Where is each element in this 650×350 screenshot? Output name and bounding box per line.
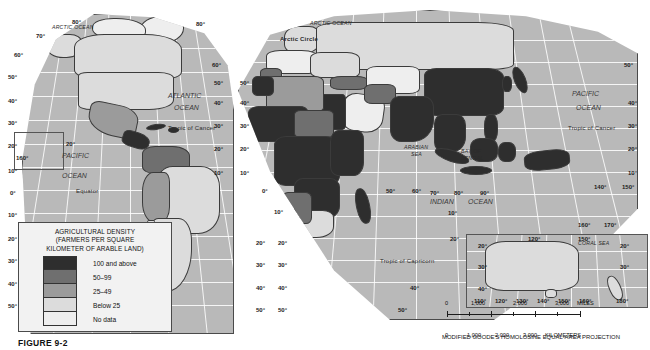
inset-lat-30-left: 30° <box>478 264 487 270</box>
scale-miles-labels: 0 1,000 2,000 3,000 MILES <box>415 300 647 310</box>
label-equator: Equator <box>76 188 98 194</box>
lat-label-s20-l: 20° <box>256 240 265 246</box>
landmass-australia <box>485 241 579 291</box>
lat-label-s40-far: 40° <box>410 285 419 291</box>
scale-tick <box>535 311 536 317</box>
legend-title-line-3: KILOMETER OF ARABLE LAND) <box>23 245 167 253</box>
lon-label-inset-160: 160° <box>16 155 28 161</box>
lat-label-s40-r: 40° <box>278 285 287 291</box>
scale-bar <box>447 312 581 317</box>
lat-label-left-inner-40: 40° <box>214 100 223 106</box>
label-arabian-sea-line2: SEA <box>411 151 422 157</box>
inset-frame-west-pacific <box>14 132 64 170</box>
map-scale-block: 0 1,000 2,000 3,000 MILES 0 1,000 2,000 … <box>415 300 647 346</box>
lat-label-left-inner-60: 60° <box>212 62 221 68</box>
lon-label-150: 150° <box>622 184 634 190</box>
lat-label-50-s: 50° <box>8 303 17 309</box>
lat-label-40: 40° <box>8 98 17 104</box>
scale-miles-unit: MILES <box>577 300 594 306</box>
label-bay-of-bengal-line2: BENGAL <box>461 155 483 161</box>
legend-entry-label: No data <box>93 316 116 323</box>
lat-label-left-inner-10: 10° <box>214 170 223 176</box>
lat-label-right-20s: 20° <box>450 236 459 242</box>
legend-entry: No data <box>43 312 137 326</box>
lat-label-right-edge-10: 10° <box>628 170 637 176</box>
legend-entry-label: 50–99 <box>93 274 111 281</box>
lat-label-right-edge-40: 40° <box>628 100 637 106</box>
lon-label-pac-170: 170° <box>604 222 616 228</box>
lat-label-right-edge-30: 30° <box>628 123 637 129</box>
legend-entry-label: 100 and above <box>93 260 137 267</box>
legend-title-line-1: AGRICULTURAL DENSITY <box>23 228 167 236</box>
label-indian-ocean-line2: OCEAN <box>468 198 493 205</box>
figure-map-agricultural-density: ARCTIC OCEAN ARCTIC OCEAN Arctic Circle … <box>0 0 650 350</box>
legend-entry: 100 and above <box>43 256 137 270</box>
lat-label-30: 30° <box>8 120 17 126</box>
label-bay-of-bengal-line1: BAY OF <box>461 148 481 154</box>
scale-tick <box>580 311 581 317</box>
label-tropic-of-capricorn: Tropic of Capricorn <box>380 258 435 264</box>
lat-label-40-s: 40° <box>8 281 17 287</box>
scale-miles-tick-1000: 1,000 <box>471 300 485 306</box>
legend-entry-label: 25–49 <box>93 288 111 295</box>
inset-lon-120-top: 120° <box>528 236 540 242</box>
landmass-tasmania <box>545 289 557 298</box>
lat-label-10-n: 10° <box>8 168 17 174</box>
lon-label-50: 50° <box>386 188 395 194</box>
legend-swatch <box>43 312 77 326</box>
lon-label-0: 0° <box>262 188 268 194</box>
lon-label-60: 60° <box>412 188 421 194</box>
label-pacific-ocean-right-line1: PACIFIC <box>572 90 599 97</box>
lat-label-80: 80° <box>72 19 81 25</box>
lat-label-20-inset: 20° <box>66 141 75 147</box>
lat-label-s30-l: 30° <box>256 262 265 268</box>
lat-label-right-left-20: 20° <box>240 146 249 152</box>
scale-miles-tick-3000: 3,000 <box>555 300 569 306</box>
legend-entry-label: Below 25 <box>93 302 120 309</box>
label-atlantic-ocean-line2: OCEAN <box>174 104 199 111</box>
lat-label-s30-r: 30° <box>278 262 287 268</box>
lat-label-right-10s-b: 10° <box>448 210 457 216</box>
legend-entry: 25–49 <box>43 284 137 298</box>
legend-swatch <box>43 298 77 312</box>
legend-entry: Below 25 <box>43 298 137 312</box>
lon-label-70: 70° <box>430 190 439 196</box>
lat-label-s50-far: 50° <box>398 307 407 313</box>
legend-title: AGRICULTURAL DENSITY (FARMERS PER SQUARE… <box>19 223 171 253</box>
scale-tick <box>491 311 492 317</box>
lat-label-20: 20° <box>8 143 17 149</box>
lon-label-140: 140° <box>594 184 606 190</box>
label-atlantic-ocean-line1: ATLANTIC <box>168 92 201 99</box>
legend-swatch <box>43 284 77 298</box>
figure-caption: FIGURE 9-2 <box>18 338 68 348</box>
inset-lat-30-right: 30° <box>620 264 629 270</box>
lat-label-left-inner-30: 30° <box>214 123 223 129</box>
legend-swatch <box>43 270 77 284</box>
label-arctic-circle: Arctic Circle <box>280 36 318 42</box>
label-tropic-of-cancer-left: Tropic of Cancer <box>168 125 215 131</box>
lat-label-left-inner-80: 80° <box>196 21 205 27</box>
lat-label-20-s: 20° <box>8 236 17 242</box>
legend-swatch <box>43 256 77 270</box>
label-arctic-ocean-right: ARCTIC OCEAN <box>310 20 352 26</box>
label-pacific-ocean-line1: PACIFIC <box>62 152 89 159</box>
lon-label-90: 90° <box>480 190 489 196</box>
label-tropic-of-cancer-right: Tropic of Cancer <box>568 125 615 131</box>
lat-label-70: 70° <box>36 33 45 39</box>
scale-tick <box>447 311 448 317</box>
label-indian-ocean-line1: INDIAN <box>430 198 454 205</box>
scale-tick <box>469 312 470 316</box>
lat-label-right-edge-50: 50° <box>624 62 633 68</box>
scale-tick <box>557 312 558 316</box>
lat-label-right-left-40: 40° <box>240 100 249 106</box>
lat-label-0: 0° <box>10 190 16 196</box>
scale-miles-tick-2000: 2,000 <box>513 300 527 306</box>
inset-lat-20-left: 20° <box>478 243 487 249</box>
lat-label-right-edge-20: 20° <box>628 146 637 152</box>
lat-label-s20-r: 20° <box>278 240 287 246</box>
lat-label-left-inner-20: 20° <box>214 146 223 152</box>
scale-kilometers-labels: 0 1,000 2,000 3,000 KILOMETERS <box>415 318 647 328</box>
lat-label-10-s: 10° <box>8 212 17 218</box>
inset-lat-40-left: 40° <box>478 286 487 292</box>
lat-label-s50-r: 50° <box>278 307 287 313</box>
